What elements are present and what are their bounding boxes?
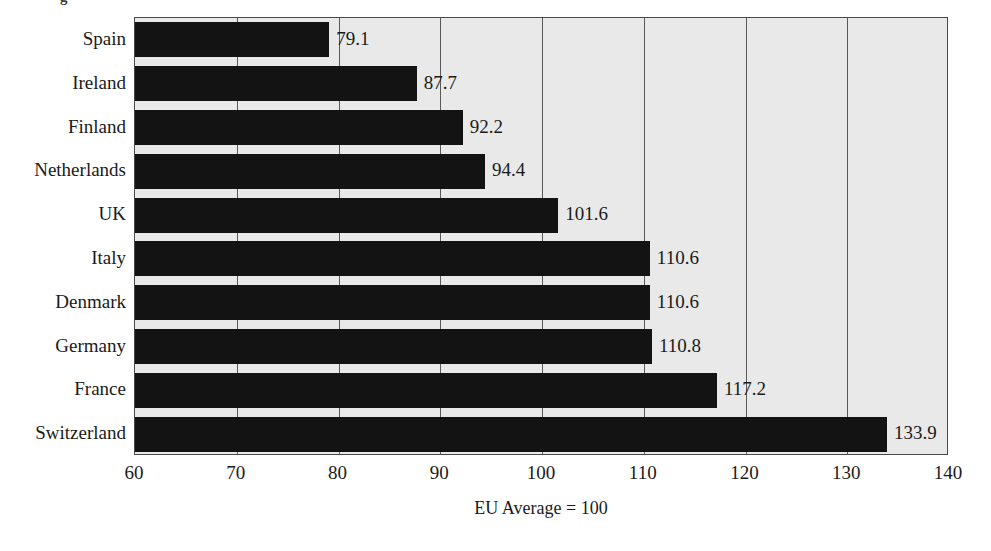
category-label-france: France	[0, 377, 126, 401]
x-tick-80: 80	[328, 462, 347, 484]
value-label-spain: 79.1	[336, 27, 369, 51]
x-tick-120: 120	[730, 462, 759, 484]
x-tick-130: 130	[832, 462, 861, 484]
x-tick-140: 140	[934, 462, 963, 484]
category-axis-labels: SpainIrelandFinlandNetherlandsUKItalyDen…	[0, 17, 126, 455]
value-label-finland: 92.2	[470, 115, 503, 139]
value-label-netherlands: 94.4	[492, 158, 525, 182]
x-tick-60: 60	[125, 462, 144, 484]
value-label-switzerland: 133.9	[894, 421, 937, 445]
value-label-denmark: 110.6	[657, 290, 699, 314]
x-axis-title: EU Average = 100	[134, 498, 948, 519]
category-label-netherlands: Netherlands	[0, 158, 126, 182]
category-label-ireland: Ireland	[0, 71, 126, 95]
category-label-finland: Finland	[0, 115, 126, 139]
x-tick-110: 110	[629, 462, 657, 484]
category-label-germany: Germany	[0, 334, 126, 358]
value-label-germany: 110.8	[659, 334, 701, 358]
value-label-uk: 101.6	[565, 202, 608, 226]
bar-value-labels: 79.187.792.294.4101.6110.6110.6110.8117.…	[134, 17, 991, 455]
bar-chart-figure: SpainIrelandFinlandNetherlandsUKItalyDen…	[0, 0, 991, 551]
value-label-france: 117.2	[724, 377, 766, 401]
value-label-italy: 110.6	[657, 246, 699, 270]
x-tick-100: 100	[527, 462, 556, 484]
category-label-switzerland: Switzerland	[0, 421, 126, 445]
category-label-uk: UK	[0, 202, 126, 226]
category-label-denmark: Denmark	[0, 290, 126, 314]
x-axis-tick-labels: 60708090100110120130140	[0, 462, 991, 490]
category-label-italy: Italy	[0, 246, 126, 270]
category-label-spain: Spain	[0, 27, 126, 51]
x-tick-70: 70	[226, 462, 245, 484]
x-tick-90: 90	[430, 462, 449, 484]
value-label-ireland: 87.7	[424, 71, 457, 95]
